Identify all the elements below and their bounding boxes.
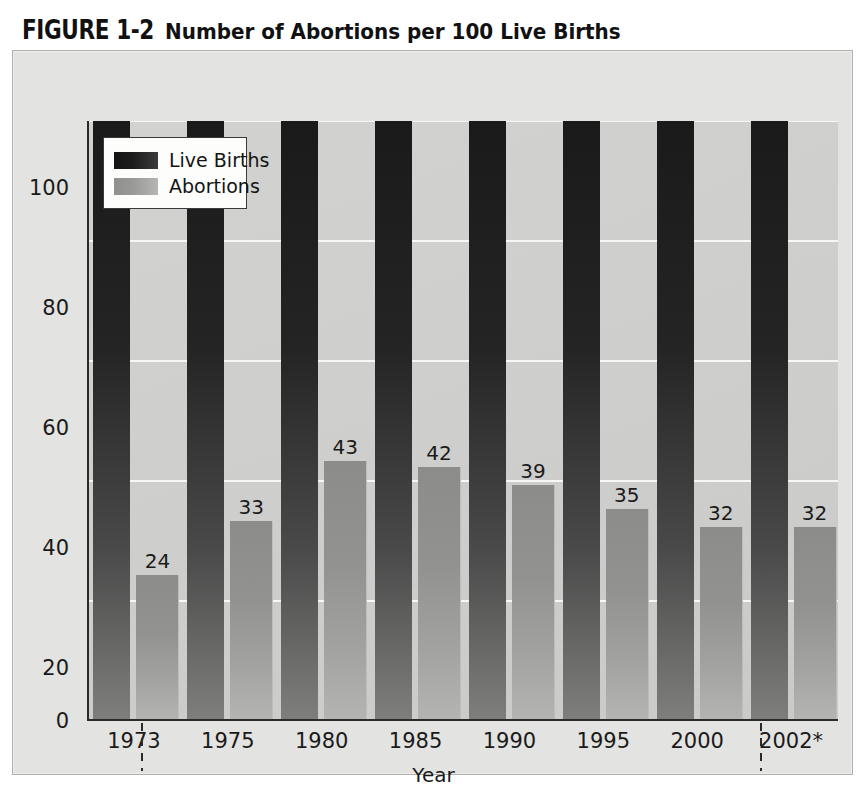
bar-value-label-2000: 32 bbox=[700, 501, 742, 525]
bar-value-label-1973: 24 bbox=[136, 549, 178, 573]
y-tick-0: 0 bbox=[13, 709, 69, 733]
bar-live-births-2002*[interactable] bbox=[751, 121, 788, 719]
bar-live-births-1985[interactable] bbox=[375, 121, 412, 719]
x-tick-1975: 1975 bbox=[181, 729, 275, 753]
bar-abortions-2000[interactable] bbox=[700, 527, 743, 719]
legend-item-abortions: Abortions bbox=[114, 173, 236, 199]
legend-swatch-abortions-icon bbox=[114, 178, 158, 195]
legend-swatch-live-births-icon bbox=[114, 152, 158, 169]
x-axis-title: Year bbox=[13, 763, 854, 787]
bar-live-births-2000[interactable] bbox=[657, 121, 694, 719]
bar-value-label-1980: 43 bbox=[324, 435, 366, 459]
plot-area: 2433434239353232 bbox=[87, 121, 838, 721]
bar-live-births-1990[interactable] bbox=[469, 121, 506, 719]
bar-abortions-1975[interactable] bbox=[230, 521, 273, 719]
legend-item-live-births: Live Births bbox=[114, 147, 236, 173]
bar-live-births-1995[interactable] bbox=[563, 121, 600, 719]
bar-abortions-1990[interactable] bbox=[512, 485, 555, 719]
bar-abortions-1973[interactable] bbox=[136, 575, 179, 719]
y-tick-80: 80 bbox=[13, 296, 69, 320]
y-tick-20: 20 bbox=[13, 656, 69, 680]
plot-inner: 2433434239353232 bbox=[89, 121, 838, 719]
x-tick-1990: 1990 bbox=[463, 729, 557, 753]
x-tick-1985: 1985 bbox=[369, 729, 463, 753]
figure-frame: 100 80 60 40 20 0 2433434239353232 Live … bbox=[12, 50, 853, 775]
legend-label-abortions: Abortions bbox=[169, 175, 260, 197]
chart-legend: Live Births Abortions bbox=[103, 137, 247, 209]
bar-live-births-1973[interactable] bbox=[93, 121, 130, 719]
bar-abortions-2002*[interactable] bbox=[794, 527, 837, 719]
bar-live-births-1975[interactable] bbox=[187, 121, 224, 719]
x-tick-1980: 1980 bbox=[275, 729, 369, 753]
x-tick-1973: 1973 bbox=[87, 729, 181, 753]
legend-label-live-births: Live Births bbox=[169, 149, 269, 171]
bar-abortions-1995[interactable] bbox=[606, 509, 649, 719]
y-tick-40: 40 bbox=[13, 536, 69, 560]
figure-page: FIGURE 1-2 Number of Abortions per 100 L… bbox=[0, 0, 866, 791]
bar-value-label-1995: 35 bbox=[606, 483, 648, 507]
y-tick-60: 60 bbox=[13, 416, 69, 440]
bar-value-label-1975: 33 bbox=[230, 495, 272, 519]
bar-live-births-1980[interactable] bbox=[281, 121, 318, 719]
figure-number: FIGURE 1-2 bbox=[22, 14, 154, 45]
x-tick-2002*: 2002* bbox=[744, 729, 838, 753]
bar-abortions-1985[interactable] bbox=[418, 467, 461, 719]
bar-abortions-1980[interactable] bbox=[324, 461, 367, 719]
x-tick-1995: 1995 bbox=[556, 729, 650, 753]
page-title: Number of Abortions per 100 Live Births bbox=[165, 20, 621, 44]
bar-value-label-1985: 42 bbox=[418, 441, 460, 465]
bar-value-label-2002*: 32 bbox=[794, 501, 836, 525]
y-tick-100: 100 bbox=[13, 176, 69, 200]
figure-title-row: FIGURE 1-2 Number of Abortions per 100 L… bbox=[22, 14, 645, 45]
x-tick-2000: 2000 bbox=[650, 729, 744, 753]
bar-value-label-1990: 39 bbox=[512, 459, 554, 483]
